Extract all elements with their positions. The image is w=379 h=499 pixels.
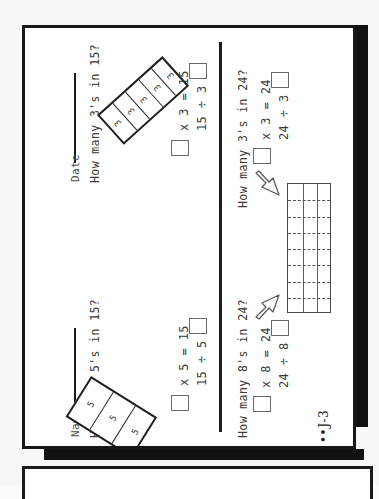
next-page-edge (22, 466, 373, 499)
grid-diagram-24 (287, 183, 331, 313)
grid-row-line (288, 233, 330, 234)
strip-segment-label: 3 (139, 94, 150, 105)
page-shadow-right (355, 25, 368, 427)
strip-segment-label: 3 (152, 82, 163, 93)
equation-multiply-3: x 8 = 24 (259, 327, 273, 388)
equation-divide-1: 15 ÷ 5 = (195, 325, 209, 386)
strip-segment-label: 3 (165, 70, 176, 81)
question-3-text: How many 8's in 24? (236, 299, 250, 438)
grid-row-line (288, 217, 330, 218)
strip-segment-label: 5 (129, 427, 140, 437)
equation-multiply-1: x 5 = 15 (177, 325, 191, 386)
grid-column-line (317, 184, 318, 312)
grid-row-line (288, 265, 330, 266)
grid-row-line (288, 298, 330, 299)
date-field-label: Date (69, 154, 82, 182)
answer-box-multiply-4[interactable] (253, 148, 271, 164)
worksheet-page: Name How many 5's in 15? 5 5 5 x 5 = 15 … (22, 25, 356, 449)
answer-box-multiply-3[interactable] (253, 396, 271, 412)
strip-segment-label: 3 (113, 118, 124, 129)
answer-box-divide-2[interactable] (189, 63, 207, 79)
equation-multiply-2: x 3 = 15 (177, 70, 191, 131)
question-4-text: How many 3's in 24? (236, 69, 250, 208)
strip-segment-label: 5 (85, 399, 96, 409)
column-divider (219, 42, 222, 432)
page-shadow-bottom (44, 449, 364, 460)
strip-segment-label: 3 (126, 106, 137, 117)
grid-row-line (288, 282, 330, 283)
answer-box-divide-3[interactable] (271, 320, 289, 336)
page-code: ••J-3 (317, 410, 331, 443)
strip-segment-label: 5 (107, 413, 118, 423)
answer-box-multiply-2[interactable] (171, 140, 189, 156)
equation-divide-3: 24 ÷ 8 = (277, 327, 291, 388)
grid-row-line (288, 249, 330, 250)
date-write-line (74, 73, 76, 163)
equation-multiply-4: x 3 = 24 (259, 79, 273, 140)
pointer-arrow-upper (253, 168, 285, 200)
grid-row-line (288, 200, 330, 201)
equation-divide-4: 24 ÷ 3 = (277, 79, 291, 140)
strip-diagram-3s: 3 3 3 3 3 (97, 56, 189, 145)
equation-divide-2: 15 ÷ 3 = (195, 70, 209, 131)
pointer-arrow-lower (253, 290, 285, 322)
answer-box-multiply-1[interactable] (171, 395, 189, 411)
grid-column-line (303, 184, 304, 312)
answer-box-divide-4[interactable] (271, 72, 289, 88)
answer-box-divide-1[interactable] (189, 318, 207, 334)
